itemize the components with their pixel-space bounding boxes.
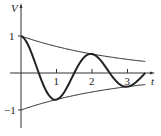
y-tick-label: 1 <box>9 30 15 42</box>
x-tick-label: 2 <box>89 75 95 87</box>
y-axis-arrow-icon <box>20 3 23 8</box>
y-axis-label: V <box>11 2 19 14</box>
x-tick-label: 1 <box>54 75 60 87</box>
damped-oscillation-curve <box>21 36 145 100</box>
lower-envelope-curve <box>21 85 145 110</box>
x-axis-label: t <box>151 75 155 87</box>
y-tick-label: −1 <box>4 104 16 116</box>
damped-oscillation-chart: 123 1−1 V t <box>0 0 161 136</box>
